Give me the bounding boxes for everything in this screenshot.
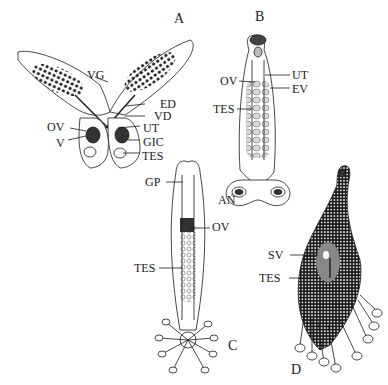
- panel-b-drawing: [226, 35, 290, 206]
- label-b-ev: EV: [292, 83, 308, 95]
- label-a-tes: TES: [142, 150, 163, 162]
- label-b-ut: UT: [292, 69, 308, 81]
- label-a-ov: OV: [47, 121, 64, 133]
- panel-d-drawing: [289, 166, 382, 372]
- label-c-ov: OV: [212, 221, 229, 233]
- label-a-vg: VG: [87, 69, 104, 81]
- panel-c-drawing: [155, 161, 218, 373]
- label-b-an: AN: [218, 194, 235, 206]
- label-d-sv: SV: [268, 249, 283, 261]
- panel-d-letter: D: [291, 363, 301, 377]
- label-a-gic: GIC: [143, 136, 164, 148]
- panel-c-letter: C: [228, 339, 237, 353]
- label-d-tes: TES: [259, 272, 280, 284]
- label-b-ov: OV: [220, 75, 237, 87]
- panel-b-letter: B: [255, 10, 264, 24]
- label-c-tes: TES: [134, 262, 155, 274]
- figure-canvas: [0, 0, 388, 385]
- label-a-ut: UT: [143, 122, 159, 134]
- label-b-tes: TES: [213, 103, 234, 115]
- label-c-gp: GP: [145, 176, 160, 188]
- panel-a-letter: A: [174, 12, 184, 26]
- label-a-v: V: [56, 137, 65, 149]
